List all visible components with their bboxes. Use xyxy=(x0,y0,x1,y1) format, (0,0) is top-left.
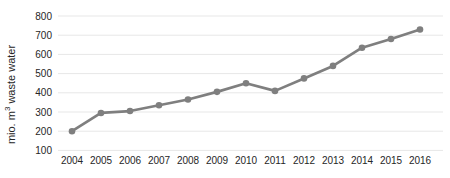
x-tick-label: 2006 xyxy=(119,155,142,166)
x-tick-label: 2011 xyxy=(264,155,286,166)
x-tick-label: 2005 xyxy=(90,155,113,166)
y-tick-label: 500 xyxy=(35,68,52,79)
y-tick-label: 200 xyxy=(35,126,52,137)
data-point-marker xyxy=(388,36,395,43)
y-axis-title-post: waste water xyxy=(5,45,17,107)
waste-water-line-chart: mio. m3 waste water 10020030040050060070… xyxy=(0,0,450,178)
data-point-marker xyxy=(98,110,105,117)
x-tick-label: 2016 xyxy=(409,155,432,166)
data-point-marker xyxy=(417,26,424,33)
x-tick-label: 2004 xyxy=(61,155,84,166)
y-tick-label: 300 xyxy=(35,107,52,118)
data-point-marker xyxy=(359,44,366,51)
y-tick-label: 400 xyxy=(35,87,52,98)
data-point-marker xyxy=(301,75,308,82)
y-tick-label: 600 xyxy=(35,49,52,60)
line-chart-plot-area: 1002003004005006007008002004200520062007… xyxy=(0,0,450,178)
data-point-marker xyxy=(243,80,250,87)
y-tick-label: 100 xyxy=(35,145,52,156)
y-tick-label: 800 xyxy=(35,11,52,22)
x-tick-label: 2013 xyxy=(322,155,345,166)
x-tick-label: 2009 xyxy=(206,155,229,166)
x-tick-label: 2015 xyxy=(380,155,403,166)
x-tick-label: 2014 xyxy=(351,155,374,166)
data-point-marker xyxy=(330,63,337,70)
x-tick-label: 2008 xyxy=(177,155,200,166)
y-axis-title-sup: 3 xyxy=(3,107,12,111)
data-point-marker xyxy=(272,88,279,95)
data-point-marker xyxy=(214,89,221,96)
x-tick-label: 2010 xyxy=(235,155,258,166)
y-tick-label: 700 xyxy=(35,30,52,41)
data-point-marker xyxy=(185,96,192,103)
data-point-marker xyxy=(69,128,76,135)
x-tick-label: 2007 xyxy=(148,155,171,166)
data-point-marker xyxy=(127,108,134,115)
x-tick-label: 2012 xyxy=(293,155,316,166)
y-axis-title-pre: mio. m xyxy=(5,111,17,144)
y-axis-title: mio. m3 waste water xyxy=(4,25,19,165)
data-point-marker xyxy=(156,102,163,109)
